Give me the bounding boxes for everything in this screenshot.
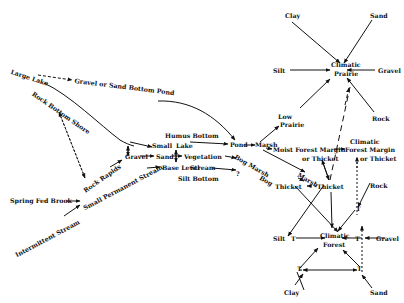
- label-t-rock: T: [356, 205, 361, 212]
- label-climatic-prairie-2: Prairie: [334, 70, 358, 77]
- label-clay-bottom: Clay: [284, 289, 299, 296]
- label-small: Small: [152, 142, 172, 149]
- label-sand: Sand: [156, 153, 174, 160]
- label-gravel-bottom-right: Gravel: [376, 235, 399, 242]
- label-rock-bottom: Rock: [370, 182, 388, 189]
- label-climatic-fm: Climatic: [350, 138, 380, 145]
- label-stream: Stream: [190, 164, 216, 171]
- label-question: ?: [236, 170, 240, 177]
- succession-diagram: Large Lake Gravel or Sand Bottom Pond Ro…: [0, 0, 404, 303]
- label-or-thicket-2: or Thicket: [360, 155, 396, 162]
- label-moist-forest-margin: Moist Forest Margin: [273, 146, 345, 153]
- label-humus-bottom: Humus Bottom: [165, 132, 219, 139]
- label-t-silt: T: [291, 235, 296, 242]
- label-silt-bottom: Silt Bottom: [178, 175, 219, 182]
- label-or-thicket-1: or Thicket: [302, 155, 338, 162]
- label-t-clay: T: [297, 265, 302, 272]
- label-silt-top: Silt: [273, 67, 285, 74]
- label-spring-fed-brook: Spring Fed Brook: [10, 197, 72, 204]
- label-rock-top: Rock: [372, 115, 390, 122]
- label-climatic-forest-2: Forest: [323, 241, 345, 248]
- label-climatic-prairie-1: Climatic: [331, 61, 361, 68]
- label-t-sand: T: [357, 265, 362, 272]
- label-sand-top: Sand: [370, 12, 388, 19]
- label-thicket-left: Thicket: [275, 183, 302, 190]
- label-forest-margin: Forest Margin: [345, 146, 395, 153]
- label-silt-bottom-right: Silt: [273, 235, 285, 242]
- label-clay-top: Clay: [285, 12, 300, 19]
- label-gravel-top: Gravel: [378, 67, 401, 74]
- label-sand-bottom: Sand: [370, 289, 388, 296]
- label-pond: Pond: [230, 141, 248, 148]
- label-gravel: Gravel: [125, 153, 148, 160]
- label-vegetation: Vegetation: [184, 153, 222, 160]
- label-low: Low: [278, 113, 292, 120]
- label-climatic-forest-1: Climatic: [320, 232, 350, 239]
- label-thicket-mid: Thicket: [317, 183, 344, 190]
- label-low-prairie: Prairie: [280, 121, 304, 128]
- label-lake: Lake: [176, 142, 193, 149]
- label-t-gravel: T: [355, 235, 360, 242]
